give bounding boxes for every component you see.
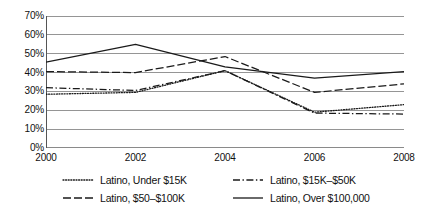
dash-dot-line-icon bbox=[232, 175, 264, 185]
dashed-line-icon bbox=[62, 193, 94, 203]
legend-label: Latino, $15K–$50K bbox=[270, 175, 356, 186]
x-tick-label: 2002 bbox=[106, 152, 166, 164]
y-tick-label: 60% bbox=[2, 30, 44, 40]
legend-item: Latino, Over $100,000 bbox=[232, 190, 370, 206]
solid-line-icon bbox=[232, 193, 264, 203]
x-axis: 20002002200420062008 bbox=[46, 152, 404, 168]
legend-label: Latino, Over $100,000 bbox=[270, 193, 370, 204]
y-tick-label: 70% bbox=[2, 11, 44, 21]
y-tick-label: 10% bbox=[2, 124, 44, 134]
legend-item: Latino, Under $15K bbox=[62, 172, 187, 188]
series-line bbox=[46, 57, 404, 93]
x-tick-label: 2000 bbox=[16, 152, 76, 164]
legend-label: Latino, $50–$100K bbox=[100, 193, 185, 204]
dotted-line-icon bbox=[62, 175, 94, 185]
line-chart: 70%60%50%40%30%20%10%0% 2000200220042006… bbox=[0, 0, 445, 219]
y-tick-label: 40% bbox=[2, 68, 44, 78]
plot-svg bbox=[46, 16, 404, 148]
x-tick-label: 2006 bbox=[285, 152, 345, 164]
plot-area bbox=[46, 16, 404, 148]
x-tick-label: 2008 bbox=[374, 152, 434, 164]
y-tick-label: 30% bbox=[2, 86, 44, 96]
y-tick-label: 50% bbox=[2, 49, 44, 59]
series-line bbox=[46, 71, 404, 114]
legend-label: Latino, Under $15K bbox=[100, 175, 187, 186]
legend-item: Latino, $50–$100K bbox=[62, 190, 185, 206]
y-axis: 70%60%50%40%30%20%10%0% bbox=[0, 0, 44, 219]
y-tick-label: 20% bbox=[2, 105, 44, 115]
x-tick-label: 2004 bbox=[195, 152, 255, 164]
series-line bbox=[46, 44, 404, 78]
legend-item: Latino, $15K–$50K bbox=[232, 172, 356, 188]
chart-legend: Latino, Under $15KLatino, $15K–$50KLatin… bbox=[62, 172, 392, 208]
